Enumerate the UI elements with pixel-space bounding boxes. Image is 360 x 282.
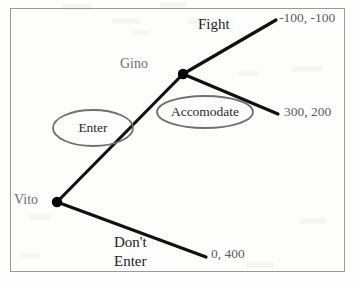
node-gino — [178, 69, 188, 79]
action-label-fight: Fight — [198, 17, 230, 33]
payoff-accomodate: 300, 200 — [284, 105, 331, 119]
payoff-dont-enter: 0, 400 — [211, 247, 245, 261]
node-label-vito: Vito — [14, 193, 38, 208]
action-label-dont-enter-line1: Don't — [114, 233, 147, 252]
diagram-canvas: Vito Gino Fight Don't Enter Enter Accomo… — [0, 0, 360, 282]
action-label-accomodate: Accomodate — [157, 96, 253, 128]
action-label-dont-enter-line2: Enter — [114, 252, 146, 271]
action-label-enter: Enter — [53, 110, 133, 146]
node-label-gino: Gino — [120, 57, 148, 72]
payoff-fight: -100, -100 — [279, 11, 335, 25]
node-vito — [52, 197, 62, 207]
